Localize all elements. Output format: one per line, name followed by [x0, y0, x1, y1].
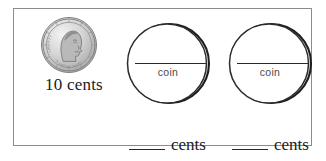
coin-write-line	[135, 63, 206, 64]
answer-row-1: cents	[129, 125, 206, 153]
blank-coin-slot-1[interactable]: coin	[123, 22, 211, 112]
answer-blank-input-2[interactable]	[232, 149, 268, 150]
answer-unit-label-2: cents	[274, 136, 309, 153]
answer-blank-input-1[interactable]	[129, 149, 165, 150]
given-coin-value-label: 10 cents	[30, 75, 118, 95]
coin-write-line	[237, 63, 308, 64]
us-dime-coin-icon: LIBERTY IN GOD WE TRUST	[41, 17, 97, 73]
coin-inner-label: coin	[123, 66, 213, 78]
worksheet-frame: LIBERTY IN GOD WE TRUST 10 cents	[13, 8, 312, 146]
blank-coin-slot-2[interactable]: coin	[225, 22, 313, 112]
answer-unit-label-1: cents	[171, 136, 206, 153]
worksheet-canvas: LIBERTY IN GOD WE TRUST 10 cents	[0, 0, 326, 161]
given-coin-cell: LIBERTY IN GOD WE TRUST 10 cents	[30, 15, 118, 111]
coin-inner-label: coin	[225, 66, 315, 78]
answer-row-2: cents	[232, 125, 309, 153]
